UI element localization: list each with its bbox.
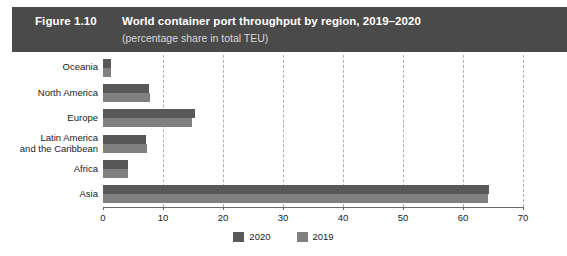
y-axis-label-line: Europe [0, 112, 98, 123]
y-axis-category-labels: OceaniaNorth AmericaEuropeLatin Americaa… [0, 55, 98, 207]
legend-swatch-icon [297, 232, 308, 242]
y-axis-label: Europe [0, 112, 98, 123]
x-tick-mark [403, 207, 404, 210]
y-axis-label-line: Latin America [0, 132, 98, 143]
legend-item-2020[interactable]: 2020 [233, 231, 270, 242]
y-axis-label-line: North America [0, 87, 98, 98]
y-axis-label: Africa [0, 163, 98, 174]
x-tick-mark [163, 207, 164, 210]
legend-label: 2019 [313, 231, 334, 242]
figure-header-band: Figure 1.10 World container port through… [12, 7, 567, 52]
x-tick-label: 40 [328, 212, 358, 223]
y-axis-label-line: and the Caribbean [0, 143, 98, 154]
gridline-50 [403, 55, 404, 207]
x-axis-line [103, 207, 523, 208]
gridline-70 [523, 55, 524, 207]
bar-group [103, 185, 523, 203]
bar-2020 [103, 84, 149, 93]
figure-subtitle: (percentage share in total TEU) [122, 32, 268, 44]
x-tick-mark [103, 207, 104, 210]
bar-2020 [103, 160, 128, 169]
x-tick-mark [523, 207, 524, 210]
y-axis-label-line: Oceania [0, 61, 98, 72]
figure-title: World container port throughput by regio… [122, 15, 421, 27]
x-tick-mark [283, 207, 284, 210]
legend-swatch-icon [233, 232, 244, 242]
plot-area [103, 55, 523, 207]
bar-2019 [103, 118, 192, 127]
bar-2019 [103, 68, 111, 77]
y-axis-label-line: Asia [0, 188, 98, 199]
y-axis-label-line: Africa [0, 163, 98, 174]
bar-2020 [103, 185, 489, 194]
gridline-40 [343, 55, 344, 207]
bar-2020 [103, 109, 195, 118]
x-tick-label: 50 [388, 212, 418, 223]
x-tick-label: 30 [268, 212, 298, 223]
bar-2019 [103, 169, 128, 178]
x-tick-label: 70 [508, 212, 538, 223]
bar-group [103, 84, 523, 102]
x-tick-label: 10 [148, 212, 178, 223]
bar-group [103, 135, 523, 153]
bar-2019 [103, 144, 147, 153]
gridline-10 [163, 55, 164, 207]
x-tick-mark [463, 207, 464, 210]
y-axis-label: Latin Americaand the Caribbean [0, 132, 98, 154]
chart-body: OceaniaNorth AmericaEuropeLatin Americaa… [0, 55, 567, 256]
bar-group [103, 109, 523, 127]
bar-2020 [103, 59, 111, 68]
gridline-30 [283, 55, 284, 207]
legend-label: 2020 [249, 231, 270, 242]
gridline-20 [223, 55, 224, 207]
bar-2020 [103, 135, 146, 144]
figure-number: Figure 1.10 [35, 15, 97, 27]
legend-item-2019[interactable]: 2019 [297, 231, 334, 242]
bar-2019 [103, 194, 488, 203]
bar-group [103, 160, 523, 178]
figure-container: Figure 1.10 World container port through… [0, 0, 567, 256]
x-tick-label: 0 [88, 212, 118, 223]
x-tick-label: 20 [208, 212, 238, 223]
chart-legend: 20202019 [0, 231, 567, 242]
x-tick-label: 60 [448, 212, 478, 223]
x-tick-mark [343, 207, 344, 210]
x-tick-mark [223, 207, 224, 210]
y-axis-label: Oceania [0, 61, 98, 72]
bar-2019 [103, 93, 150, 102]
y-axis-label: Asia [0, 188, 98, 199]
bar-group [103, 59, 523, 77]
y-axis-label: North America [0, 87, 98, 98]
gridline-60 [463, 55, 464, 207]
